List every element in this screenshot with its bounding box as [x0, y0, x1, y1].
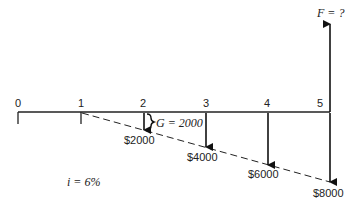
cash-flow-label-2: $2000 — [124, 134, 155, 146]
period-label-5: 5 — [317, 97, 323, 109]
future-value-label: F = ? — [316, 6, 344, 20]
period-label-0: 0 — [15, 97, 21, 109]
gradient-label: G = 2000 — [156, 116, 203, 130]
cash-flow-label-5: $8000 — [313, 187, 344, 199]
gradient-brace-icon — [147, 114, 154, 130]
interest-rate-label: i = 6% — [67, 175, 100, 189]
period-label-2: 2 — [140, 97, 146, 109]
period-label-3: 3 — [203, 97, 209, 109]
cash-flow-label-3: $4000 — [187, 151, 218, 163]
period-label-1: 1 — [78, 97, 84, 109]
cash-flow-diagram: 0 1 2 3 4 5 F = ? G = 2000 $2000 $4000 $… — [0, 0, 358, 205]
cash-flow-label-4: $6000 — [248, 168, 279, 180]
period-label-4: 4 — [264, 97, 270, 109]
